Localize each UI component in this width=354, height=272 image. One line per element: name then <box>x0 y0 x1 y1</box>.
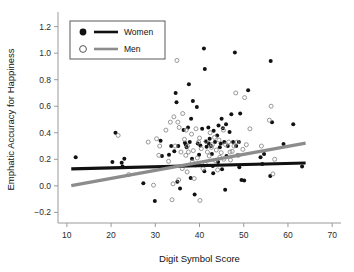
data-point <box>248 127 252 131</box>
data-point <box>184 153 188 157</box>
x-tick-label: 30 <box>151 230 161 240</box>
data-point <box>267 118 271 122</box>
data-point <box>116 133 120 137</box>
data-point <box>211 171 215 175</box>
y-axis-title: Emphatic Accuracy for Happiness <box>5 48 16 190</box>
y-tick-label: 0.4 <box>39 128 51 138</box>
data-point <box>152 183 156 187</box>
data-point <box>259 155 263 159</box>
data-point <box>244 143 248 147</box>
data-point <box>205 150 209 154</box>
data-point <box>246 88 250 92</box>
data-point <box>174 91 178 95</box>
data-point <box>175 58 179 62</box>
data-point <box>300 165 304 169</box>
data-point <box>195 156 199 160</box>
data-point <box>231 140 235 144</box>
legend: WomenMen <box>70 21 165 59</box>
data-point <box>175 100 179 104</box>
data-point <box>243 96 247 100</box>
data-point <box>177 125 181 129</box>
data-point <box>188 140 192 144</box>
legend-label-men: Men <box>124 44 141 54</box>
data-point <box>229 112 233 116</box>
data-point <box>158 144 162 148</box>
chart-container: 10203040506070−0.20.00.20.40.60.81.01.2D… <box>0 0 354 272</box>
data-point <box>228 130 232 134</box>
x-tick-label: 70 <box>327 230 337 240</box>
data-point <box>206 125 210 129</box>
data-point <box>170 198 174 202</box>
data-point <box>169 144 173 148</box>
data-point <box>191 99 195 103</box>
data-point <box>120 161 124 165</box>
data-point <box>217 138 221 142</box>
x-tick-label: 60 <box>283 230 293 240</box>
data-point <box>146 140 150 144</box>
data-point <box>238 112 242 116</box>
data-point <box>259 144 263 148</box>
data-point <box>227 140 231 144</box>
data-point <box>195 105 199 109</box>
data-point <box>171 182 175 186</box>
data-point <box>185 170 189 174</box>
data-point <box>203 67 207 71</box>
data-point <box>214 148 218 152</box>
data-point <box>269 59 273 63</box>
data-point <box>110 160 114 164</box>
data-point <box>189 117 193 121</box>
data-point <box>208 131 212 135</box>
data-point <box>181 112 185 116</box>
y-tick-label: 1.2 <box>39 22 51 32</box>
y-tick-label: 0.0 <box>39 181 51 191</box>
scatter-plot: 10203040506070−0.20.00.20.40.60.81.01.2D… <box>0 0 354 272</box>
data-point <box>218 145 222 149</box>
data-point <box>199 147 203 151</box>
data-point <box>223 188 227 192</box>
series-men <box>116 58 277 202</box>
data-point <box>208 137 212 141</box>
data-point <box>269 104 273 108</box>
data-point <box>141 181 145 185</box>
data-point <box>167 159 171 163</box>
x-tick-label: 50 <box>239 230 249 240</box>
data-point <box>176 120 180 124</box>
x-axis-title: Digit Symbol Score <box>159 253 240 264</box>
data-point <box>234 91 238 95</box>
data-point <box>200 127 204 131</box>
data-point <box>273 157 277 161</box>
data-point <box>74 155 78 159</box>
x-tick-label: 20 <box>106 230 116 240</box>
data-point <box>179 150 183 154</box>
data-point <box>155 137 159 141</box>
data-point <box>178 187 182 191</box>
data-point <box>207 154 211 158</box>
data-point <box>202 47 206 51</box>
data-point <box>190 132 194 136</box>
data-point <box>153 199 157 203</box>
data-point <box>164 128 168 132</box>
y-tick-label: 0.8 <box>39 75 51 85</box>
data-point <box>219 151 223 155</box>
data-point <box>216 168 220 172</box>
data-point <box>167 153 171 157</box>
data-point <box>271 172 275 176</box>
legend-label-women: Women <box>124 27 153 37</box>
data-point <box>217 123 221 127</box>
data-point <box>224 122 228 126</box>
data-point <box>187 82 191 86</box>
data-point <box>220 117 224 121</box>
data-point <box>262 152 266 156</box>
x-tick-label: 10 <box>62 230 72 240</box>
data-point <box>192 177 196 181</box>
data-point <box>213 135 217 139</box>
data-point <box>193 192 197 196</box>
y-tick-label: −0.2 <box>34 207 51 217</box>
y-tick-label: 1.0 <box>39 48 51 58</box>
data-point <box>291 122 295 126</box>
data-point <box>172 149 176 153</box>
data-point <box>233 50 237 54</box>
data-point <box>242 179 246 183</box>
y-tick-label: 0.2 <box>39 154 51 164</box>
data-point <box>159 139 163 143</box>
